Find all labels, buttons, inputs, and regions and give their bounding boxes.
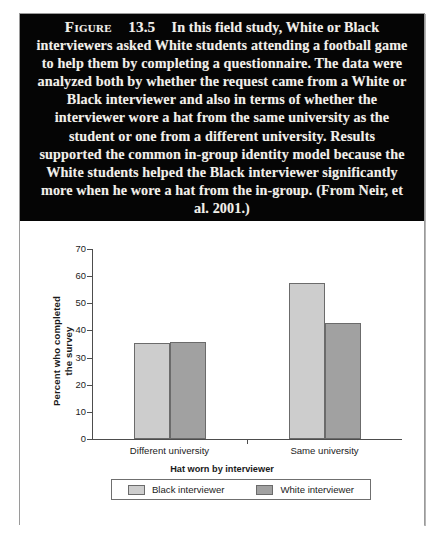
x-axis-tick [247,439,248,444]
legend-item: Black interviewer [128,484,225,495]
y-axis-tick [87,303,92,304]
x-axis-group-label: Different university [92,445,247,456]
figure-page: { "figure": { "label_word": "Figure", "n… [0,0,443,544]
y-axis-tick-label: 60 [60,270,86,281]
y-axis-tick [87,385,92,386]
y-axis-tick [87,249,92,250]
y-axis-line [92,249,93,439]
bar [289,283,325,439]
x-axis-group-label: Same university [247,445,402,456]
y-axis-tick-label: 40 [60,324,86,335]
y-axis-tick [87,276,92,277]
legend-label-black-interviewer: Black interviewer [152,484,225,495]
y-axis-tick-labels: 706050403020100 [56,249,86,439]
bar [170,342,206,439]
figure-frame: Figure 13.5 In this field study, White o… [19,13,425,525]
chart-panel: Percent who completed the survey 7060504… [20,221,424,526]
figure-caption-text: Figure 13.5 In this field study, White o… [20,18,424,217]
y-axis-tick [87,412,92,413]
legend-swatch-black-interviewer [128,485,145,495]
y-axis-tick-label: 30 [60,352,86,363]
x-axis-title: Hat worn by interviewer [20,464,424,474]
y-axis-tick [87,330,92,331]
chart-legend: Black interviewer White interviewer [111,479,371,500]
y-axis-tick-label: 10 [60,406,86,417]
y-axis-tick-label: 70 [60,243,86,254]
bar [325,323,361,439]
y-axis-tick-label: 20 [60,379,86,390]
figure-label-word: Figure [65,18,112,35]
figure-number: 13.5 [128,18,155,35]
y-axis-tick [87,358,92,359]
y-axis-tick-label: 50 [60,297,86,308]
plot-area: 706050403020100 Different universitySame… [92,249,402,439]
legend-label-white-interviewer: White interviewer [280,484,354,495]
bar [134,343,170,439]
legend-item: White interviewer [256,484,354,495]
y-axis-tick [87,439,92,440]
y-axis-tick-label: 0 [60,433,86,444]
legend-swatch-white-interviewer [256,485,273,495]
figure-caption-block: Figure 13.5 In this field study, White o… [20,14,424,221]
figure-caption-body: In this field study, White or Black inte… [37,19,408,216]
